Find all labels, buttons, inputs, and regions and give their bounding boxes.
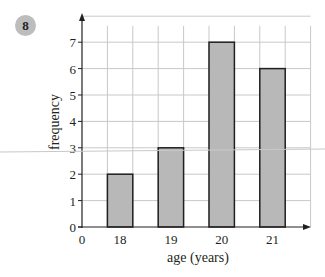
bars xyxy=(107,42,285,227)
bar-19 xyxy=(158,148,183,227)
y-tick-label: 3 xyxy=(70,141,77,156)
bar-20 xyxy=(209,42,234,227)
bar-21 xyxy=(260,69,285,227)
y-tick-label: 7 xyxy=(70,35,77,50)
y-axis-arrow-icon xyxy=(79,13,85,21)
y-tick-label: 1 xyxy=(70,194,77,209)
x-origin-label: 0 xyxy=(79,232,86,247)
y-tick-labels: 01234567 xyxy=(70,35,83,235)
y-tick-label: 6 xyxy=(70,62,77,77)
x-tick-label: 20 xyxy=(215,232,228,247)
bar-chart: 01234567 018192021 frequency age (years) xyxy=(0,0,325,277)
x-tick-label: 19 xyxy=(164,232,177,247)
x-axis-label: age (years) xyxy=(167,250,229,266)
y-tick-label: 2 xyxy=(70,167,77,182)
y-axis-label: frequency xyxy=(47,94,62,150)
x-tick-label: 21 xyxy=(266,232,279,247)
x-tick-label: 18 xyxy=(114,232,127,247)
bar-18 xyxy=(107,174,132,227)
y-tick-label: 4 xyxy=(70,114,77,129)
x-axis-arrow-icon xyxy=(303,224,311,230)
y-tick-label: 0 xyxy=(70,220,77,235)
y-tick-label: 5 xyxy=(70,88,77,103)
x-tick-labels: 018192021 xyxy=(79,232,279,247)
